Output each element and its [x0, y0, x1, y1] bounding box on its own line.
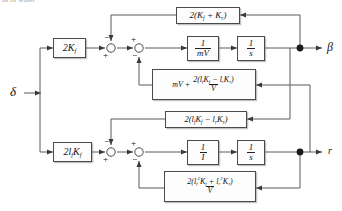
- branch-nodes: [297, 45, 304, 156]
- sum-beta-1-sign-bottom: +: [103, 51, 108, 60]
- output-label-r: r: [328, 145, 332, 156]
- integrator-beta-denominator: s: [247, 48, 255, 58]
- integrator-r-numerator: 1: [247, 143, 256, 152]
- sum-r-1-sign-bottom: +: [103, 155, 108, 164]
- feedback-squared-denominator: V: [206, 186, 215, 195]
- integrator-beta-numerator: 1: [247, 39, 256, 48]
- integrator-beta-fraction: 1 s: [247, 39, 256, 58]
- feedback-block-cross-coupling[interactable]: 2(lfKf − lrKr): [165, 111, 247, 128]
- sum-beta-2-sign-top: +: [131, 35, 136, 44]
- feedback-block-2kf-plus-kr[interactable]: 2(Kf + Kr): [176, 7, 240, 24]
- branch-node-r: [297, 149, 304, 156]
- gain-2kf-text: 2Kf: [63, 43, 76, 53]
- integrator-r-denominator: s: [247, 152, 255, 162]
- plant-i-numerator: 1: [199, 143, 208, 152]
- integrator-r-fraction: 1 s: [247, 143, 256, 162]
- output-label-beta: β: [327, 40, 333, 55]
- feedback-2kf-plus-kr-text: 2(Kf + Kr): [190, 11, 227, 20]
- gain-block-2kf[interactable]: 2Kf: [53, 38, 86, 58]
- feedback-mv-lead: mV +: [172, 81, 190, 89]
- feedback-mv-mix: mV + 2(lfKf − lrKr) V: [172, 76, 236, 93]
- plant-mv-fraction: 1 mV: [195, 39, 211, 58]
- plant-i-denominator: I: [200, 152, 207, 162]
- feedback-mv-denominator: V: [209, 84, 218, 93]
- branch-node-beta: [297, 45, 304, 52]
- feedback-block-mv-plus-term[interactable]: mV + 2(lfKf − lrKr) V: [152, 69, 256, 100]
- feedback-mv-fraction: 2(lfKf − lrKr) V: [191, 76, 236, 93]
- integrator-block-r[interactable]: 1 s: [237, 140, 265, 165]
- feedback-block-squared-term[interactable]: 2(lf2Kf + lr2Kr) V: [164, 171, 256, 202]
- plant-mv-denominator: mV: [195, 48, 211, 58]
- feedback-mv-numerator: 2(lfKf − lrKr): [191, 76, 236, 84]
- plant-block-one-over-mv[interactable]: 1 mV: [187, 36, 219, 61]
- plant-i-fraction: 1 I: [199, 143, 208, 162]
- gain-block-2lfkf[interactable]: 2lfKf: [53, 142, 92, 162]
- plant-block-one-over-i[interactable]: 1 I: [187, 140, 219, 165]
- sum-beta-2-sign-bottom: −: [132, 51, 137, 60]
- feedback-squared-fraction: 2(lf2Kf + lr2Kr) V: [185, 178, 235, 195]
- feedback-cross-text: 2(lfKf − lrKr): [184, 115, 227, 124]
- sum-r-2-sign-bottom: −: [132, 155, 137, 164]
- sum-beta-1-sign-top: −: [104, 33, 109, 42]
- gain-2lfkf-text: 2lfKf: [64, 147, 82, 157]
- summing-junction-circles: [107, 44, 143, 156]
- sum-r-2-sign-top: +: [131, 139, 136, 148]
- integrator-block-beta[interactable]: 1 s: [237, 36, 265, 61]
- feedback-squared-numerator: 2(lf2Kf + lr2Kr): [185, 178, 235, 186]
- input-label-delta: δ: [10, 84, 16, 100]
- sum-r-1-sign-top: −: [104, 137, 109, 146]
- plant-mv-numerator: 1: [199, 39, 208, 48]
